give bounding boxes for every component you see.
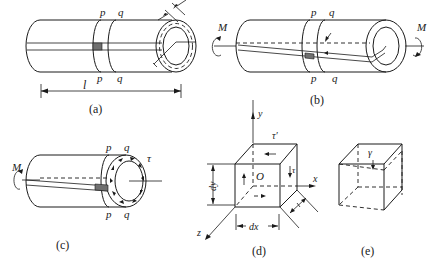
label-p-top-a: p (99, 6, 106, 18)
label-dx: dx (249, 221, 259, 232)
label-origin: O (256, 170, 264, 182)
panel-a: p q p q l (a) (26, 0, 196, 116)
label-q-top-c: q (124, 141, 130, 153)
label-axis-y: y (257, 108, 263, 119)
label-tau-prime: τ′ (272, 130, 279, 141)
label-gamma: γ (368, 147, 373, 158)
label-q-bottom-b: q (332, 72, 338, 84)
label-length: l (83, 78, 87, 92)
label-q-bottom-c: q (124, 208, 130, 220)
panel-b: M M p q p q (b) (212, 6, 427, 107)
caption-e: (e) (361, 244, 374, 258)
label-tau-c: τ (147, 152, 152, 164)
caption-a: (a) (89, 102, 102, 116)
label-axis-z: z (196, 227, 201, 238)
label-p-top-b: p (310, 6, 317, 18)
label-moment-right-b: M (416, 21, 427, 33)
label-tau-d: τ (292, 165, 296, 175)
label-p-bottom-b: p (310, 72, 317, 84)
label-p-bottom-c: p (105, 208, 112, 220)
label-q-top-a: q (118, 6, 124, 18)
label-p-top-c: p (105, 141, 112, 153)
torsion-diagram: p q p q l (a) (0, 0, 433, 265)
label-q-bottom-a: q (117, 72, 123, 84)
panel-d: y x z O τ′ τ dy (196, 100, 318, 258)
label-moment-left-b: M (217, 21, 228, 33)
caption-c: (c) (56, 238, 69, 252)
panel-e: γ (e) (339, 144, 402, 258)
label-p-bottom-a: p (96, 72, 103, 84)
caption-d: (d) (252, 244, 266, 258)
label-axis-x: x (312, 173, 318, 184)
label-moment-c: M (11, 161, 22, 173)
label-q-top-b: q (329, 6, 335, 18)
caption-b: (b) (310, 93, 324, 107)
label-dy: dy (207, 181, 218, 191)
panel-c: M p q p q τ (c) (11, 141, 162, 252)
